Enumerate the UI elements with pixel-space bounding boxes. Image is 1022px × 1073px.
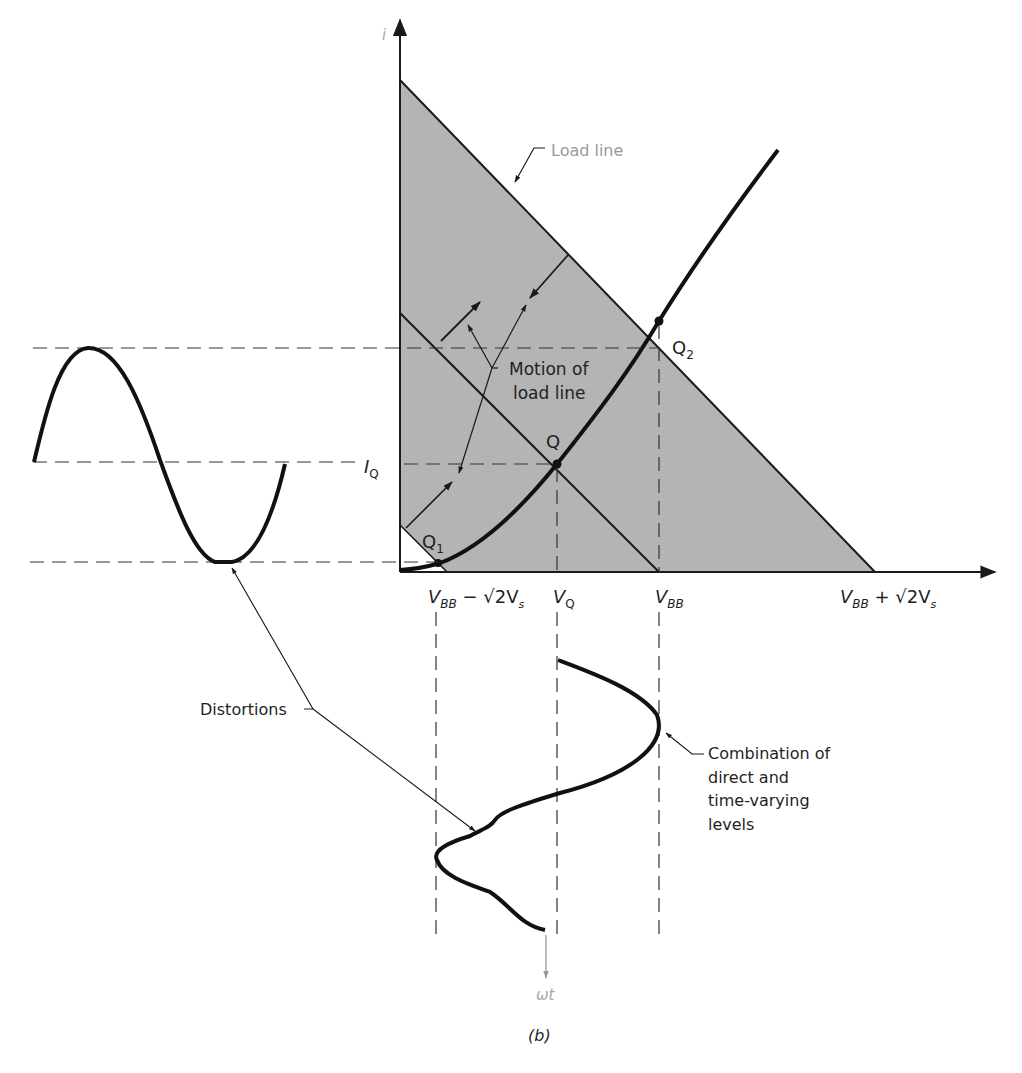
combination-leader [666, 733, 704, 754]
load-line-label: Load line [551, 141, 623, 160]
vbb-tick-label: VBB [655, 586, 684, 611]
combination-label-line4: levels [708, 815, 754, 834]
combination-label-line2: direct and [708, 768, 789, 787]
figure-caption: (b) [528, 1026, 551, 1045]
motion-label-line1: Motion of [509, 359, 589, 379]
time-axis-label: ωt [536, 986, 556, 1004]
motion-label-line2: load line [513, 383, 585, 403]
q-label: Q [546, 431, 560, 452]
q2-point [655, 317, 664, 326]
combination-label-line3: time-varying [708, 791, 810, 810]
current-waveform [34, 348, 285, 562]
q2-label: Q2 [672, 337, 694, 362]
vbb-plus-tick-label: VBB + √2Vs [840, 586, 937, 611]
vbb-minus-tick-label: VBB − √2Vs [428, 586, 525, 611]
distortions-leader [232, 568, 313, 709]
distortions-label: Distortions [200, 700, 287, 719]
voltage-waveform [436, 660, 659, 930]
iq-tick-label: IQ [364, 456, 379, 481]
vq-tick-label: VQ [553, 586, 575, 611]
combination-label-line1: Combination of [708, 744, 831, 763]
load-line-leader [515, 148, 545, 182]
q1-point [434, 559, 442, 567]
load-line-diagram: i Load line Motion of load line Q Q1 Q2 … [0, 0, 1022, 1073]
distortions-leader-2 [313, 709, 475, 831]
y-axis-label: i [382, 26, 387, 44]
